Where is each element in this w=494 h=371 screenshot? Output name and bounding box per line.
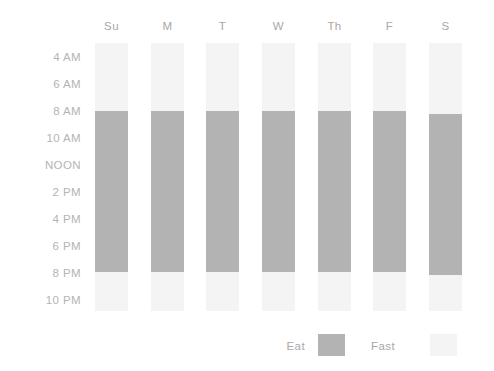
time-label-text: 8 PM	[53, 267, 81, 279]
day-header-su: Su	[95, 21, 128, 33]
bar-column-m	[151, 43, 184, 311]
bar-segment-eat	[373, 111, 406, 272]
time-label-text: 8 AM	[53, 105, 81, 117]
bar-segment-eat	[151, 111, 184, 272]
bar-column-s	[429, 43, 462, 311]
time-label-text: 2 PM	[53, 186, 81, 198]
time-label-10am: 10 AM	[0, 133, 81, 145]
bar-column-f	[373, 43, 406, 311]
bar-column-su	[95, 43, 128, 311]
legend-label-text: Fast	[371, 340, 395, 352]
time-label-text: 6 AM	[53, 78, 81, 90]
time-label-10pm: 10 PM	[0, 295, 81, 307]
legend-swatch-fast	[430, 334, 457, 356]
day-header-label: S	[441, 20, 449, 32]
day-header-m: M	[151, 21, 184, 33]
legend-label-fast: Fast	[330, 341, 395, 353]
day-header-s: S	[429, 21, 462, 33]
eating-window-chart: Su M T W Th F S 4 AM 6 AM 8 AM 10 AM NOO…	[0, 0, 494, 371]
bar-segment-eat	[318, 111, 351, 272]
day-header-label: W	[273, 20, 284, 32]
day-header-f: F	[373, 21, 406, 33]
legend-label-eat: Eat	[240, 341, 305, 353]
time-label-6am: 6 AM	[0, 79, 81, 91]
time-label-8am: 8 AM	[0, 106, 81, 118]
bar-column-w	[262, 43, 295, 311]
time-label-8pm: 8 PM	[0, 268, 81, 280]
bar-segment-eat	[95, 111, 128, 272]
chart-legend: Eat Fast	[0, 332, 494, 362]
time-label-text: 4 AM	[53, 51, 81, 63]
time-label-4am: 4 AM	[0, 52, 81, 64]
day-header-w: W	[262, 21, 295, 33]
bar-column-t	[206, 43, 239, 311]
time-label-text: NOON	[45, 159, 81, 171]
time-label-text: 4 PM	[53, 213, 81, 225]
bar-segment-eat	[206, 111, 239, 272]
time-label-noon: NOON	[0, 160, 81, 172]
bar-segment-eat	[262, 111, 295, 272]
time-label-text: 10 AM	[46, 132, 81, 144]
day-header-th: Th	[318, 21, 351, 33]
day-header-label: M	[163, 20, 173, 32]
legend-label-text: Eat	[287, 340, 305, 352]
time-label-2pm: 2 PM	[0, 187, 81, 199]
time-label-6pm: 6 PM	[0, 241, 81, 253]
day-header-label: Su	[104, 20, 119, 32]
day-header-label: Th	[327, 20, 341, 32]
time-label-text: 10 PM	[46, 294, 81, 306]
day-header-t: T	[206, 21, 239, 33]
bar-column-th	[318, 43, 351, 311]
time-label-text: 6 PM	[53, 240, 81, 252]
time-label-4pm: 4 PM	[0, 214, 81, 226]
bar-segment-eat	[429, 114, 462, 275]
day-header-label: T	[219, 20, 226, 32]
day-header-label: F	[386, 20, 393, 32]
